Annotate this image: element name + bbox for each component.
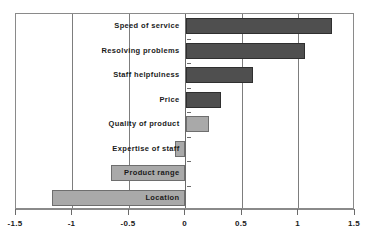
x-tick-label: 0.5 [235, 219, 247, 228]
x-tick-label: -1 [68, 219, 76, 228]
bar-row: Expertise of staff [16, 137, 353, 162]
bar-category-label: Expertise of staff [112, 142, 179, 156]
bar-row: Product range [16, 161, 353, 186]
bar-category-label: Resolving problems [102, 44, 180, 58]
bar-row: Speed of service [16, 14, 353, 39]
bar [186, 92, 221, 108]
bar [186, 67, 254, 83]
x-tick [241, 209, 242, 215]
x-tick [184, 209, 185, 215]
bar-category-label: Price [159, 93, 179, 107]
bar-row: Location [16, 186, 353, 211]
x-tick [297, 209, 298, 215]
bar [186, 43, 306, 59]
bar [186, 18, 333, 34]
bar-row: Quality of product [16, 112, 353, 137]
bar-chart: Speed of serviceResolving problemsStaff … [0, 0, 368, 243]
bar-category-label: Location [145, 191, 179, 205]
bar-category-label: Staff helpfulness [113, 68, 179, 82]
x-tick-label: 1.5 [348, 219, 360, 228]
bar-row: Resolving problems [16, 39, 353, 64]
x-tick [71, 209, 72, 215]
x-tick-label: -1.5 [8, 219, 23, 228]
bar-row: Price [16, 88, 353, 113]
bar-category-label: Quality of product [109, 117, 180, 131]
bar-category-label: Speed of service [114, 19, 179, 33]
x-tick [15, 209, 16, 215]
plot-area: Speed of serviceResolving problemsStaff … [15, 13, 354, 209]
x-tick [354, 209, 355, 215]
bar-row: Staff helpfulness [16, 63, 353, 88]
x-tick-label: 0 [182, 219, 187, 228]
x-tick-label: 1 [295, 219, 300, 228]
x-tick-label: -0.5 [121, 219, 136, 228]
bar-category-label: Product range [124, 166, 179, 180]
bar [186, 116, 210, 132]
x-tick [128, 209, 129, 215]
